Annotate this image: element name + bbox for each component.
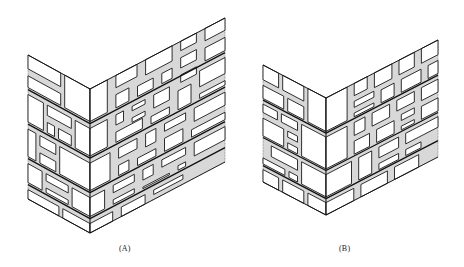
panel-a-label: (A)	[119, 244, 131, 253]
wall-left-face	[263, 65, 326, 215]
panel-b-coursed-wall	[263, 40, 438, 215]
panel-b-label: (B)	[339, 244, 350, 253]
wall-right-face	[326, 40, 438, 215]
wall-left-face	[28, 55, 90, 233]
panel-a-rubble-wall	[28, 18, 225, 233]
wall-right-face	[90, 18, 225, 233]
stone	[28, 129, 36, 161]
wall-corner-figure	[0, 0, 464, 267]
